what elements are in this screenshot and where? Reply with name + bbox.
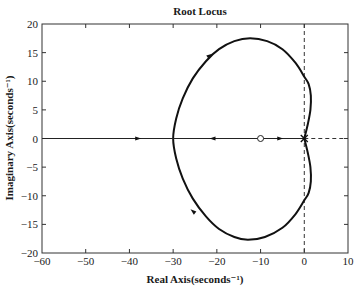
guide-lines bbox=[304, 24, 348, 253]
x-tick-label: −30 bbox=[165, 255, 183, 267]
plot-canvas: Root Locus −60−50−40−30−20−10010−20−15−1… bbox=[0, 0, 364, 297]
y-tick-label: −15 bbox=[21, 218, 39, 230]
direction-arrow-icon bbox=[135, 137, 141, 141]
y-tick-label: −20 bbox=[21, 247, 39, 259]
y-axis-label: Imaginary Axis(seconds⁻¹) bbox=[3, 75, 16, 200]
pole-zero-markers bbox=[135, 52, 308, 215]
direction-arrow-icon bbox=[189, 208, 196, 215]
direction-arrow-icon bbox=[209, 137, 215, 141]
zero-marker-icon bbox=[258, 136, 264, 142]
chart-title: Root Locus bbox=[173, 5, 227, 17]
locus-curves bbox=[42, 38, 311, 240]
x-tick-label: −10 bbox=[252, 255, 270, 267]
y-tick-label: 0 bbox=[33, 133, 39, 145]
root-locus-chart: Root Locus −60−50−40−30−20−10010−20−15−1… bbox=[0, 0, 364, 297]
x-tick-label: 0 bbox=[302, 255, 308, 267]
y-tick-label: −5 bbox=[26, 161, 38, 173]
y-tick-label: 10 bbox=[27, 75, 39, 87]
direction-arrow-icon bbox=[277, 137, 283, 141]
y-tick-label: −10 bbox=[21, 190, 39, 202]
y-tick-label: 5 bbox=[33, 104, 39, 116]
x-tick-label: 10 bbox=[343, 255, 355, 267]
x-axis-label: Real Axis(seconds⁻¹) bbox=[147, 273, 244, 286]
x-tick-label: −50 bbox=[77, 255, 95, 267]
y-tick-label: 15 bbox=[27, 47, 39, 59]
x-tick-label: −40 bbox=[121, 255, 139, 267]
locus-branch-loop bbox=[173, 38, 311, 240]
y-tick-label: 20 bbox=[27, 18, 39, 30]
x-tick-label: −20 bbox=[208, 255, 226, 267]
